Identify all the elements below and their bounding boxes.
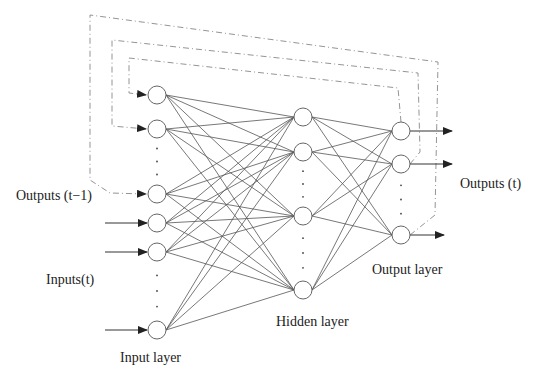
connection-line	[166, 117, 294, 252]
ellipsis-dot	[156, 306, 158, 308]
ellipsis-dot	[302, 267, 304, 269]
connection-line	[166, 129, 294, 290]
input-layer-label: Input layer	[120, 350, 181, 366]
ellipsis-dots	[156, 148, 402, 308]
inputs-label: Inputs(t)	[46, 272, 94, 288]
input-node	[148, 214, 166, 232]
hidden-node	[294, 281, 312, 299]
feedback-loop	[90, 15, 438, 235]
outputs-prev-label: Outputs (t−1)	[16, 188, 92, 204]
connection-line	[166, 95, 294, 290]
input-node	[148, 120, 166, 138]
ellipsis-dot	[400, 213, 402, 215]
outputs-label: Outputs (t)	[460, 176, 521, 192]
hidden-node	[294, 143, 312, 161]
ellipsis-dot	[156, 275, 158, 277]
connection-line	[166, 117, 294, 223]
ellipsis-dot	[302, 183, 304, 185]
connections	[166, 95, 392, 330]
ellipsis-dot	[156, 148, 158, 150]
input-node	[148, 243, 166, 261]
connection-line	[166, 117, 294, 330]
connection-line	[166, 117, 294, 194]
feedback-loops	[90, 15, 438, 235]
hidden-node	[294, 108, 312, 126]
input-node	[148, 185, 166, 203]
ellipsis-dot	[302, 170, 304, 172]
ellipsis-dot	[156, 290, 158, 292]
connection-line	[312, 216, 392, 235]
ellipsis-dot	[400, 184, 402, 186]
ellipsis-dot	[302, 196, 304, 198]
connection-line	[166, 252, 294, 290]
connection-line	[166, 152, 294, 330]
hidden-node	[294, 207, 312, 225]
connection-line	[166, 129, 294, 216]
ellipsis-dot	[156, 174, 158, 176]
output-node	[392, 226, 410, 244]
ellipsis-dot	[302, 252, 304, 254]
connection-line	[166, 152, 294, 252]
output-node	[392, 122, 410, 140]
connection-line	[312, 152, 392, 235]
connection-line	[166, 290, 294, 330]
connection-line	[166, 194, 294, 290]
output-layer-label: Output layer	[372, 262, 442, 278]
connection-line	[312, 152, 392, 164]
connection-line	[166, 216, 294, 223]
connection-line	[312, 117, 392, 235]
connection-line	[312, 164, 392, 216]
input-node	[148, 86, 166, 104]
connection-line	[166, 95, 294, 152]
connection-line	[166, 216, 294, 252]
ellipsis-dot	[400, 199, 402, 201]
ellipsis-dot	[156, 161, 158, 163]
connection-line	[312, 131, 392, 216]
hidden-layer-label: Hidden layer	[276, 314, 349, 330]
ellipsis-dot	[302, 237, 304, 239]
output-node	[392, 155, 410, 173]
input-node	[148, 321, 166, 339]
connection-line	[166, 117, 294, 129]
